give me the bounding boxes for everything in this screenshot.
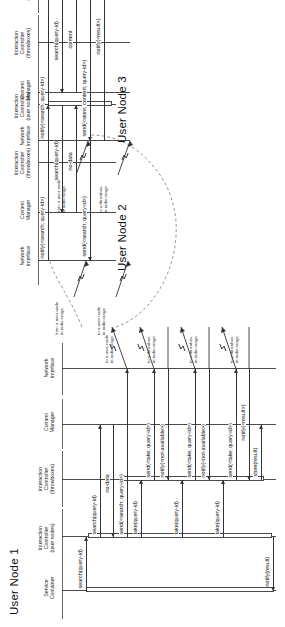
sequence-diagram-canvas: User Node 1 Service Container Interactio…: [0, 0, 285, 627]
wireless-arrow-head: [84, 141, 226, 333]
wireless-bolts-overlay: [0, 0, 285, 627]
lightning-bolt-icon: [78, 153, 226, 351]
